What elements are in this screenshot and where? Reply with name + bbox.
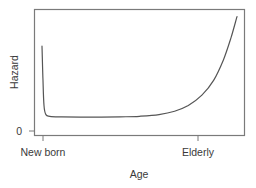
hazard-curve [42, 17, 237, 118]
x-tick-label-elderly: Elderly [182, 146, 215, 158]
x-axis-label: Age [130, 168, 149, 180]
hazard-chart: 0 New born Elderly Age Hazard [0, 0, 256, 188]
y-tick-label-0: 0 [16, 125, 22, 137]
x-tick-label-newborn: New born [21, 146, 66, 158]
y-axis-label: Hazard [8, 55, 20, 89]
